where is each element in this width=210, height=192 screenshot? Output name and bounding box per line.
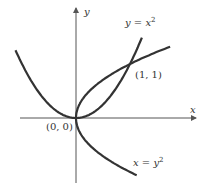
diagram: y x y = x2 x = y2 (0, 0) (1, 1) <box>0 0 210 192</box>
curve-label-y-eq-x2: y = x2 <box>125 16 156 28</box>
point-label-1-1: (1, 1) <box>135 69 162 80</box>
curve-label-x-eq-y2: x = y2 <box>133 156 164 168</box>
plot-canvas <box>0 0 210 192</box>
y-axis-label: y <box>84 6 90 17</box>
x-axis-label: x <box>190 104 196 115</box>
point-label-origin: (0, 0) <box>46 121 73 132</box>
